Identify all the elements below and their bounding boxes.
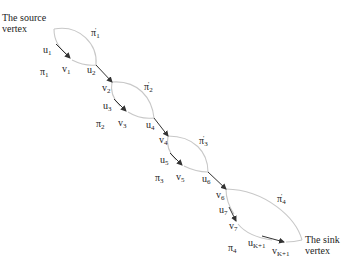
source-vertex-label: The source vertex — [2, 12, 46, 34]
label-u7: u7 — [219, 205, 228, 217]
label-pi2: π2 — [96, 119, 105, 131]
label-v2: v2 — [102, 83, 111, 95]
label-v5: v5 — [176, 172, 185, 184]
label-pi1: π1 — [40, 67, 49, 79]
label-u1: u1 — [43, 45, 52, 57]
label-vK1: vK+1 — [272, 246, 290, 258]
label-u2: u2 — [87, 65, 96, 77]
label-v6: v6 — [216, 190, 225, 202]
label-v3: v3 — [118, 118, 127, 130]
label-pi3: π3 — [155, 173, 164, 185]
label-v1: v1 — [62, 64, 71, 76]
edge-u2-v2 — [96, 65, 112, 82]
label-pi1-prime: π'1 — [91, 27, 100, 40]
label-uK1: uK+1 — [248, 238, 266, 250]
label-pi4-prime: π'4 — [277, 193, 286, 206]
label-v4: v4 — [159, 135, 168, 147]
edge-u3-v3 — [114, 99, 126, 111]
label-v7: v7 — [229, 221, 238, 233]
label-pi3-prime: π'3 — [199, 135, 208, 148]
edge-u7-v7 — [229, 207, 236, 221]
path-pi1 — [54, 29, 96, 65]
path-pi4 — [226, 189, 302, 242]
label-u5: u5 — [160, 155, 169, 167]
label-u4: u4 — [146, 120, 155, 132]
path-pi1-prime — [54, 28, 96, 65]
edge-u1-v1 — [56, 44, 70, 58]
sink-label-line1: The sink — [305, 234, 340, 245]
label-pi2-prime: π'2 — [144, 81, 153, 94]
edge-u5-v5 — [170, 153, 182, 165]
sink-label-line2: vertex — [305, 245, 340, 256]
label-pi4: π4 — [228, 243, 237, 255]
source-label-line1: The source — [2, 12, 46, 23]
path-diagram — [0, 0, 360, 273]
sink-vertex-label: The sink vertex — [305, 234, 340, 256]
label-u6: u6 — [202, 174, 211, 186]
label-u3: u3 — [103, 101, 112, 113]
source-label-line2: vertex — [2, 23, 46, 34]
